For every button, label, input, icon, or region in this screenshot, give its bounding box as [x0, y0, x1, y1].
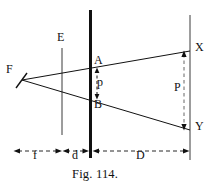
- label-object-top-A: A: [94, 54, 103, 66]
- lower-ray-line: [22, 80, 190, 130]
- label-image-bottom-Y: Y: [195, 120, 204, 132]
- label-aperture-E: E: [57, 31, 64, 43]
- label-image-size-P: P: [174, 81, 181, 93]
- label-focus-F: F: [6, 63, 13, 75]
- upper-ray-line: [22, 51, 190, 80]
- figure-caption: Fig. 114.: [72, 168, 118, 181]
- label-lens-gap-d: d: [72, 149, 78, 161]
- dimension-f: [14, 149, 63, 154]
- ray-diagram-svg: [0, 0, 211, 188]
- label-object-bottom-B: B: [94, 98, 102, 110]
- label-image-top-X: X: [195, 41, 204, 53]
- figure-114-diagram: F E A B p P X Y f d D Fig. 114.: [0, 0, 211, 188]
- label-object-size-p: p: [97, 76, 103, 88]
- label-screen-distance-D: D: [136, 149, 145, 161]
- label-focal-length-f: f: [33, 149, 37, 161]
- image-size-dimension-P: [181, 51, 186, 131]
- horizontal-dimension-chain: [14, 149, 190, 154]
